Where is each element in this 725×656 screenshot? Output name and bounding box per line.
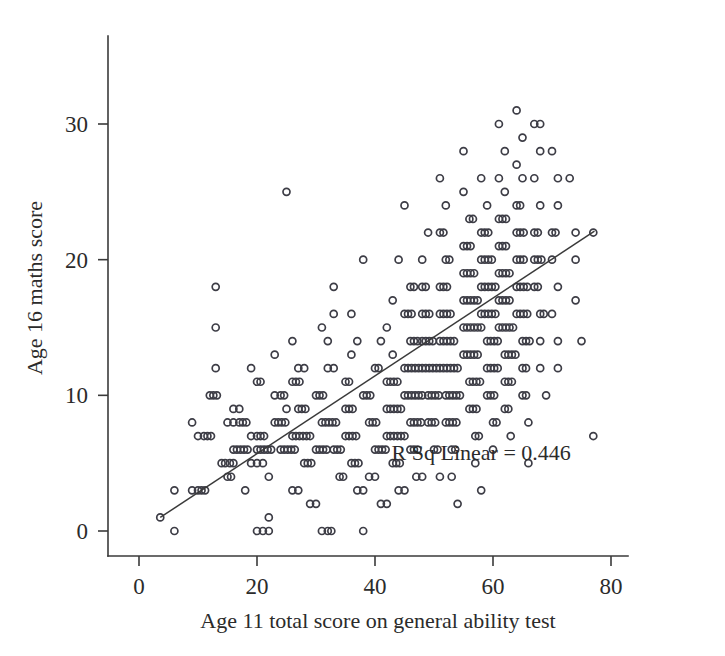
data-point: [454, 500, 461, 507]
data-point: [537, 338, 544, 345]
data-point: [348, 310, 355, 317]
data-point: [507, 433, 514, 440]
data-point: [360, 528, 367, 535]
x-axis-title: Age 11 total score on general ability te…: [200, 608, 555, 633]
data-point: [478, 175, 485, 182]
data-point: [525, 419, 532, 426]
data-point: [495, 121, 502, 128]
data-point: [460, 148, 467, 155]
data-point: [460, 188, 467, 195]
data-point: [531, 175, 538, 182]
data-point: [554, 283, 561, 290]
r-squared-annotation: R Sq Linear = 0.446: [392, 440, 571, 465]
data-point: [389, 351, 396, 358]
data-point: [330, 310, 337, 317]
data-point: [501, 188, 508, 195]
data-point: [519, 175, 526, 182]
data-point: [171, 528, 178, 535]
data-point: [271, 351, 278, 358]
data-point: [572, 229, 579, 236]
data-point: [389, 297, 396, 304]
data-point: [578, 338, 585, 345]
data-point: [171, 487, 178, 494]
data-point: [401, 202, 408, 209]
y-axis-tick-label: 20: [65, 248, 88, 273]
data-point: [478, 487, 485, 494]
data-point: [495, 175, 502, 182]
data-point: [554, 175, 561, 182]
data-point: [543, 392, 550, 399]
data-point: [265, 473, 272, 480]
y-axis-title: Age 16 maths score: [22, 201, 47, 375]
data-point: [513, 107, 520, 114]
data-point: [354, 338, 361, 345]
data-point: [212, 283, 219, 290]
x-axis-tick-label: 60: [482, 574, 505, 599]
data-point: [395, 256, 402, 263]
data-point: [537, 365, 544, 372]
data-point: [519, 134, 526, 141]
data-point: [212, 324, 219, 331]
data-point: [590, 433, 597, 440]
y-axis-tick-label: 30: [65, 112, 88, 137]
data-point: [549, 310, 556, 317]
data-point: [572, 256, 579, 263]
data-point: [566, 175, 573, 182]
data-point: [283, 188, 290, 195]
data-point: [537, 202, 544, 209]
data-point: [248, 365, 255, 372]
data-point: [360, 256, 367, 263]
data-point: [289, 338, 296, 345]
data-point: [537, 148, 544, 155]
x-axis-tick-label: 80: [600, 574, 623, 599]
data-point: [549, 148, 556, 155]
data-point: [436, 175, 443, 182]
data-point: [283, 405, 290, 412]
data-point: [242, 487, 249, 494]
data-point: [448, 473, 455, 480]
data-point: [572, 297, 579, 304]
data-point: [442, 202, 449, 209]
x-axis-tick-label: 0: [133, 574, 145, 599]
data-point: [513, 161, 520, 168]
data-point: [318, 324, 325, 331]
data-point: [425, 229, 432, 236]
data-point: [501, 148, 508, 155]
data-point: [212, 365, 219, 372]
data-point: [330, 283, 337, 290]
data-point: [324, 338, 331, 345]
data-point: [348, 351, 355, 358]
plot-area: 0102030020406080R Sq Linear = 0.446Age 1…: [0, 0, 725, 656]
data-point: [554, 338, 561, 345]
data-point: [554, 202, 561, 209]
data-point: [383, 324, 390, 331]
data-point: [265, 514, 272, 521]
data-point: [554, 365, 561, 372]
x-axis-tick-label: 20: [246, 574, 269, 599]
data-point: [419, 256, 426, 263]
scatter-chart: 0102030020406080R Sq Linear = 0.446Age 1…: [0, 0, 725, 656]
data-point: [377, 338, 384, 345]
y-axis-tick-label: 10: [65, 383, 88, 408]
x-axis-tick-label: 40: [364, 574, 387, 599]
data-point: [189, 419, 196, 426]
data-point: [436, 473, 443, 480]
y-axis-tick-label: 0: [77, 519, 89, 544]
data-point: [484, 202, 491, 209]
